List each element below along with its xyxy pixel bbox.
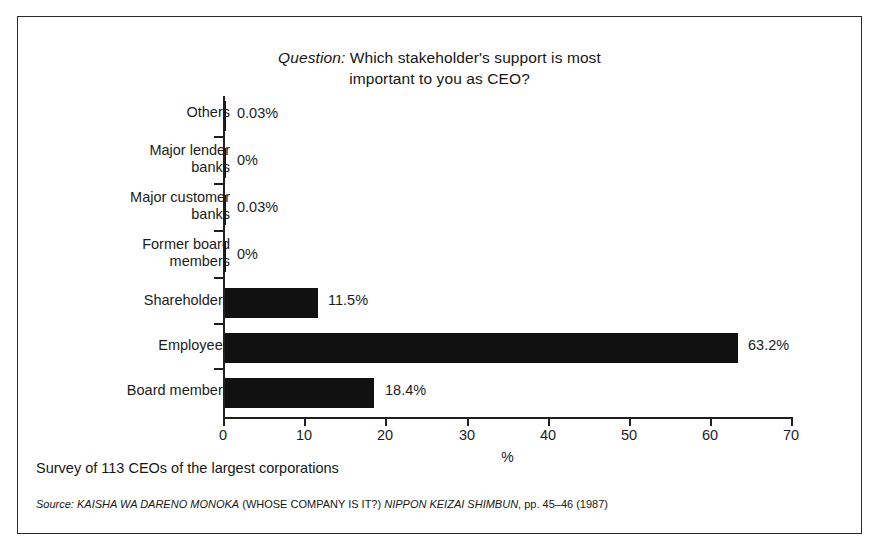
category-label-others: Others xyxy=(40,104,230,121)
source-title: KAISHA WA DARENO MONOKA xyxy=(74,498,239,510)
figure-frame: Question: Which stakeholder's support is… xyxy=(17,16,862,534)
bar-row: Employees 63.2% xyxy=(18,328,863,370)
bar-row: Major lender banks 0% xyxy=(18,142,863,184)
x-axis-tick-label: 0 xyxy=(203,427,243,443)
y-axis-tick xyxy=(214,323,224,325)
x-axis-tick xyxy=(223,417,225,426)
x-axis-tick xyxy=(304,417,306,426)
source-label: Source: xyxy=(36,498,74,510)
x-axis-tick xyxy=(791,417,793,426)
x-axis-tick-label: 60 xyxy=(690,427,730,443)
y-axis-tick xyxy=(214,230,224,232)
source-pages: , pp. 45–46 (1987) xyxy=(518,498,608,510)
x-axis-tick xyxy=(467,417,469,426)
bar-row: Others 0.03% xyxy=(18,96,863,138)
bar-value-employees: 63.2% xyxy=(748,337,789,353)
x-axis-tick xyxy=(710,417,712,426)
bar-value-others: 0.03% xyxy=(237,105,278,121)
x-axis-line xyxy=(223,417,792,419)
x-axis-tick-label: 40 xyxy=(528,427,568,443)
x-axis-tick-label: 50 xyxy=(609,427,649,443)
bar-value-major-lender-banks: 0% xyxy=(237,152,258,168)
y-axis-tick xyxy=(214,277,224,279)
bar-chart-plot-area: Others 0.03% Major lender banks 0% Major… xyxy=(18,17,863,535)
x-axis-tick-label: 20 xyxy=(365,427,405,443)
x-axis-tick xyxy=(548,417,550,426)
category-label-board-members: Board members xyxy=(40,382,230,399)
x-axis-tick-label: 10 xyxy=(284,427,324,443)
survey-note: Survey of 113 CEOs of the largest corpor… xyxy=(36,460,339,476)
category-label-major-customer-banks: Major customer banks xyxy=(40,189,230,223)
bar-board-members xyxy=(225,378,374,408)
category-label-employees: Employees xyxy=(40,337,230,354)
y-axis-tick xyxy=(214,368,224,370)
source-publication: NIPPON KEIZAI SHIMBUN xyxy=(384,498,518,510)
bar-row: Board members 18.4% xyxy=(18,373,863,415)
bar-row: Shareholders 11.5% xyxy=(18,283,863,325)
category-label-major-lender-banks: Major lender banks xyxy=(40,142,230,176)
category-label-former-board-members: Former board members xyxy=(40,236,230,270)
y-axis-tick xyxy=(214,136,224,138)
source-note: Source: KAISHA WA DARENO MONOKA (WHOSE C… xyxy=(36,498,608,510)
x-axis-tick xyxy=(629,417,631,426)
x-axis-tick-label: 30 xyxy=(447,427,487,443)
bar-value-board-members: 18.4% xyxy=(385,382,426,398)
bar-row: Former board members 0% xyxy=(18,236,863,278)
x-axis-tick-label: 70 xyxy=(771,427,811,443)
bar-shareholders xyxy=(225,288,318,318)
bar-value-shareholders: 11.5% xyxy=(328,292,368,308)
bar-employees xyxy=(225,333,738,363)
bar-value-former-board-members: 0% xyxy=(237,246,258,262)
bar-row: Major customer banks 0.03% xyxy=(18,189,863,231)
source-translation: (WHOSE COMPANY IS IT?) xyxy=(239,498,384,510)
category-label-shareholders: Shareholders xyxy=(40,292,230,309)
y-axis-tick xyxy=(214,183,224,185)
x-axis-tick xyxy=(385,417,387,426)
bar-value-major-customer-banks: 0.03% xyxy=(237,199,278,215)
